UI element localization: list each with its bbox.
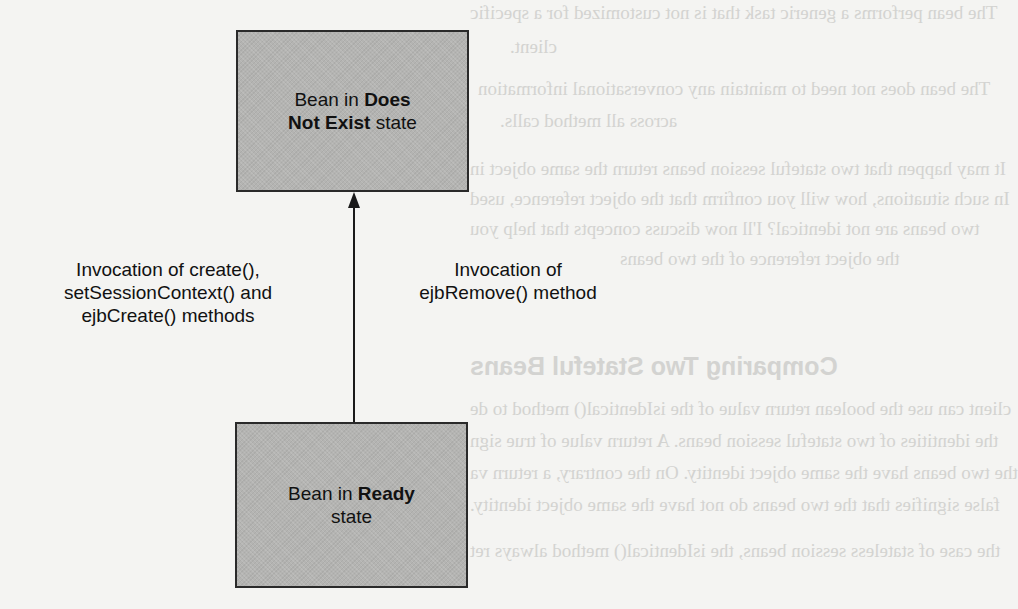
state-label-does-not-exist: Bean in Does Not Exist state — [288, 88, 417, 134]
label-line: Invocation of — [408, 258, 608, 281]
state-prefix: Bean in — [294, 89, 364, 110]
state-prefix: Bean in — [288, 483, 358, 504]
state-suffix: state — [331, 506, 372, 527]
transition-label-remove: Invocation of ejbRemove() method — [408, 258, 608, 304]
bleed-text-7: two beans are not identical? I'll now di… — [470, 218, 979, 240]
label-line: setSessionContext() and — [28, 281, 308, 304]
state-label-ready: Bean in Ready state — [288, 482, 415, 528]
state-box-does-not-exist: Bean in Does Not Exist state — [236, 30, 469, 192]
label-line: Invocation of create(), — [28, 258, 308, 281]
bleed-text-1: The bean performs a generic task that is… — [470, 2, 998, 24]
bleed-text-13: the case of stateless session beans, the… — [470, 540, 1000, 562]
bleed-text-10: the identities of two stateful session b… — [470, 430, 998, 452]
state-name-part1: Does — [364, 89, 410, 110]
state-name-part2: Not Exist — [288, 112, 370, 133]
arrowhead-up-icon — [348, 192, 360, 208]
bleed-text-4: across all method calls. — [500, 110, 677, 132]
bleed-heading: Comparing Two Stateful Beans — [470, 352, 838, 381]
bleed-text-3: The bean does not need to maintain any c… — [478, 78, 990, 100]
bleed-text-12: false signifies that the two beans do no… — [470, 494, 1000, 516]
label-line: ejbCreate() methods — [28, 304, 308, 327]
state-box-ready: Bean in Ready state — [235, 422, 468, 588]
bleed-text-5: It may happen that two stateful session … — [470, 158, 1006, 180]
state-name: Ready — [358, 483, 415, 504]
label-line: ejbRemove() method — [408, 281, 608, 304]
state-suffix: state — [370, 112, 416, 133]
bleed-text-6: In such situations, how will you confirm… — [470, 188, 1010, 210]
bleed-text-9: client can use the boolean return value … — [470, 398, 1011, 420]
bleed-text-8: the object reference of the two beans — [620, 248, 900, 270]
bleed-text-11: the two beans have the same object ident… — [470, 462, 1018, 484]
transition-label-create: Invocation of create(), setSessionContex… — [28, 258, 308, 327]
bleed-text-2: client. — [510, 36, 557, 58]
